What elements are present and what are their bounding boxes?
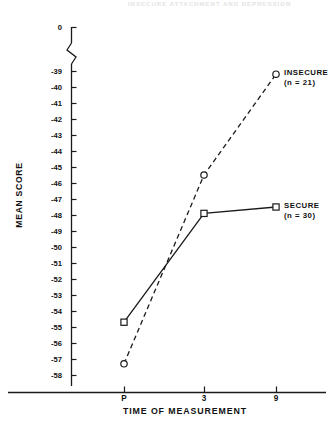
- data-point-secure: [121, 319, 127, 325]
- y-tick-label: -56: [22, 339, 62, 348]
- insecure-series-name: INSECURE: [284, 68, 328, 77]
- y-tick-label: 0: [22, 23, 62, 32]
- y-tick-label: -50: [22, 243, 62, 252]
- secure-series-name: SECURE: [284, 201, 320, 210]
- y-tick-label: -54: [22, 307, 62, 316]
- y-axis-break-mark: [67, 43, 76, 64]
- x-tick-label: 3: [192, 394, 216, 403]
- y-tick-label: -43: [22, 131, 62, 140]
- y-tick-marks: [72, 28, 77, 376]
- y-tick-label: -39: [22, 67, 62, 76]
- figure-panel: INSECURE ATTACHMENT AND DEPRESSION 0-39-…: [0, 0, 334, 432]
- y-tick-label: -52: [22, 275, 62, 284]
- y-tick-label: -47: [22, 195, 62, 204]
- y-tick-label: -45: [22, 163, 62, 172]
- secure-series-label: SECURE (n = 30): [284, 201, 320, 221]
- y-tick-label: -57: [22, 355, 62, 364]
- y-tick-label: -48: [22, 211, 62, 220]
- x-axis-title: TIME OF MEASUREMENT: [60, 406, 310, 416]
- y-tick-label: -40: [22, 83, 62, 92]
- y-tick-label: -49: [22, 227, 62, 236]
- data-point-secure: [201, 210, 207, 216]
- y-tick-label: -55: [22, 323, 62, 332]
- series-line-secure: [124, 207, 276, 322]
- y-tick-label: -41: [22, 99, 62, 108]
- x-tick-label: 9: [264, 394, 288, 403]
- series-layer: [121, 71, 279, 367]
- x-tick-label: P: [112, 394, 136, 403]
- insecure-series-label: INSECURE (n = 21): [284, 68, 328, 88]
- data-point-insecure: [121, 361, 127, 367]
- y-tick-label: -46: [22, 179, 62, 188]
- data-point-insecure: [273, 71, 279, 77]
- y-tick-label: -44: [22, 147, 62, 156]
- x-tick-marks: [125, 387, 277, 393]
- y-tick-label: -58: [22, 371, 62, 380]
- data-point-secure: [273, 204, 279, 210]
- y-tick-label: -53: [22, 291, 62, 300]
- y-axis-title: MEAN SCORE: [14, 140, 24, 250]
- y-tick-label: -51: [22, 259, 62, 268]
- insecure-series-n: (n = 21): [284, 78, 316, 87]
- data-point-insecure: [201, 172, 207, 178]
- secure-series-n: (n = 30): [284, 211, 316, 220]
- y-tick-label: -42: [22, 115, 62, 124]
